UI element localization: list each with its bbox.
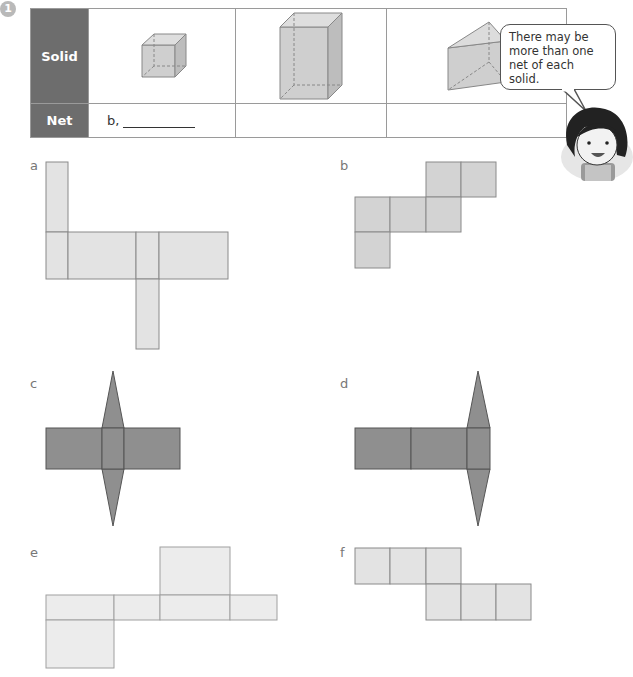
net-b-cube[interactable] bbox=[355, 162, 496, 268]
net-d-triangular-prism[interactable] bbox=[355, 371, 490, 526]
net-a-rectangular-prism[interactable] bbox=[46, 162, 228, 349]
nets-canvas bbox=[0, 0, 633, 677]
net-e-rectangular-prism[interactable] bbox=[46, 547, 277, 668]
net-f-cube[interactable] bbox=[355, 548, 531, 620]
net-c-triangular-prism[interactable] bbox=[46, 371, 180, 526]
